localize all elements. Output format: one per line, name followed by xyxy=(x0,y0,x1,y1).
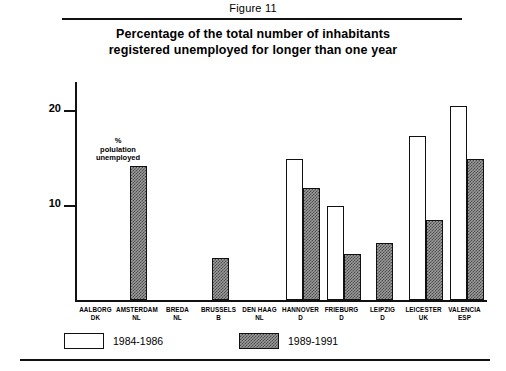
bar-group-hannover-d xyxy=(282,82,323,300)
bar-brussels-b-1989-1991[interactable] xyxy=(212,258,229,300)
category-label-line-2: NL xyxy=(116,314,157,322)
category-label-line-1: BRUSSELS xyxy=(198,306,239,314)
y-tick-label-10: 10 xyxy=(33,197,61,209)
plot-area: % polulation unemployed 1020 xyxy=(75,82,487,300)
figure-page: Figure 11 Percentage of the total number… xyxy=(0,0,506,371)
category-label-den-haag-nl: DEN HAAGNL xyxy=(239,306,280,322)
category-label-line-2: D xyxy=(321,314,362,322)
category-label-leicester-uk: LEICESTERUK xyxy=(403,306,444,322)
category-label-line-1: AMSTERDAM xyxy=(116,306,157,314)
category-label-breda-nl: BREDANL xyxy=(157,306,198,322)
y-tick-label-20: 20 xyxy=(33,102,61,114)
bar-valencia-esp-1989-1991[interactable] xyxy=(467,159,484,300)
bar-frieburg-d-1989-1991[interactable] xyxy=(344,254,361,300)
category-label-line-2: UK xyxy=(403,314,444,322)
category-label-line-1: DEN HAAG xyxy=(239,306,280,314)
bar-group-leipzig-d xyxy=(364,82,405,300)
bottom-rule xyxy=(20,359,490,361)
bar-group-valencia-esp xyxy=(446,82,487,300)
category-label-line-1: AALBORG xyxy=(75,306,116,314)
category-label-line-2: B xyxy=(198,314,239,322)
category-label-line-2: ESP xyxy=(444,314,485,322)
category-label-line-2: DK xyxy=(75,314,116,322)
category-label-line-1: BREDA xyxy=(157,306,198,314)
chart-legend: 1984-19861989-1991 xyxy=(64,333,364,353)
category-label-leipzig-d: LEIPZIGD xyxy=(362,306,403,322)
bar-amsterdam-nl-1989-1991[interactable] xyxy=(130,166,147,300)
category-label-line-2: NL xyxy=(239,314,280,322)
category-label-frieburg-d: FRIEBURGD xyxy=(321,306,362,322)
bar-group-frieburg-d xyxy=(323,82,364,300)
legend-item-1984-1986[interactable]: 1984-1986 xyxy=(64,333,163,349)
category-label-line-2: D xyxy=(280,314,321,322)
legend-swatch-open xyxy=(64,333,104,349)
bar-hannover-d-1984-1986[interactable] xyxy=(286,159,303,300)
bar-group-breda-nl xyxy=(159,82,200,300)
chart-title: Percentage of the total number of inhabi… xyxy=(38,26,468,58)
category-label-line-2: D xyxy=(362,314,403,322)
category-label-amsterdam-nl: AMSTERDAMNL xyxy=(116,306,157,322)
bar-group-amsterdam-nl xyxy=(118,82,159,300)
legend-label: 1984-1986 xyxy=(113,335,163,347)
bar-group xyxy=(77,82,487,300)
category-label-aalborg-dk: AALBORGDK xyxy=(75,306,116,322)
legend-swatch-hatched xyxy=(239,333,279,349)
legend-label: 1989-1991 xyxy=(288,335,338,347)
bar-hannover-d-1989-1991[interactable] xyxy=(303,188,320,300)
category-label-line-1: HANNOVER xyxy=(280,306,321,314)
bar-group-leicester-uk xyxy=(405,82,446,300)
bar-leicester-uk-1989-1991[interactable] xyxy=(426,220,443,300)
category-label-line-2: NL xyxy=(157,314,198,322)
chart-title-line-1: Percentage of the total number of inhabi… xyxy=(38,26,468,42)
category-label-hannover-d: HANNOVERD xyxy=(280,306,321,322)
category-label-line-1: VALENCIA xyxy=(444,306,485,314)
category-label-line-1: LEICESTER xyxy=(403,306,444,314)
bar-leicester-uk-1984-1986[interactable] xyxy=(409,136,426,300)
category-label-line-1: FRIEBURG xyxy=(321,306,362,314)
bar-leipzig-d-1989-1991[interactable] xyxy=(376,243,393,300)
figure-caption: Figure 11 xyxy=(0,2,506,14)
category-label-group: AALBORGDKAMSTERDAMNLBREDANLBRUSSELSBDEN … xyxy=(75,306,487,328)
category-label-brussels-b: BRUSSELSB xyxy=(198,306,239,322)
bar-group-brussels-b xyxy=(200,82,241,300)
bar-valencia-esp-1984-1986[interactable] xyxy=(450,106,467,300)
bar-group-aalborg-dk xyxy=(77,82,118,300)
y-tick-10 xyxy=(64,205,75,207)
legend-item-1989-1991[interactable]: 1989-1991 xyxy=(239,333,338,349)
x-axis xyxy=(75,300,487,302)
top-rule xyxy=(62,18,462,20)
category-label-line-1: LEIPZIG xyxy=(362,306,403,314)
category-label-valencia-esp: VALENCIAESP xyxy=(444,306,485,322)
y-tick-20 xyxy=(64,110,75,112)
bar-frieburg-d-1984-1986[interactable] xyxy=(327,206,344,300)
bar-group-den-haag-nl xyxy=(241,82,282,300)
chart-title-line-2: registered unemployed for longer than on… xyxy=(38,42,468,58)
